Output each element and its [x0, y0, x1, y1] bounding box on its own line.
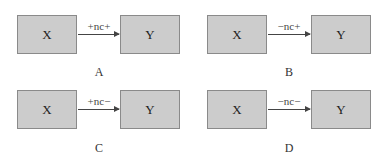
node-y: Y [120, 15, 180, 54]
node-x: X [17, 90, 77, 129]
arrow-icon [268, 109, 310, 110]
node-x-label: X [42, 27, 51, 43]
node-y-label: Y [336, 102, 345, 118]
node-y: Y [120, 90, 180, 129]
panel-label: B [285, 65, 293, 80]
node-x: X [207, 15, 267, 54]
arrow-label: −nc− [278, 95, 301, 107]
arrow-label: +nc+ [88, 20, 111, 32]
arrow-icon [78, 34, 119, 35]
node-x: X [207, 90, 267, 129]
arrow-icon [78, 109, 119, 110]
panel-label: A [95, 65, 104, 80]
node-x-label: X [232, 27, 241, 43]
node-y-label: Y [336, 27, 345, 43]
node-x: X [17, 15, 77, 54]
node-x-label: X [42, 102, 51, 118]
node-y-label: Y [145, 27, 154, 43]
arrow-icon [268, 34, 310, 35]
node-x-label: X [232, 102, 241, 118]
panel-label: D [285, 141, 294, 156]
arrow-label: −nc+ [278, 20, 301, 32]
node-y: Y [311, 90, 371, 129]
arrow-label: +nc− [88, 95, 111, 107]
panel-label: C [95, 141, 103, 156]
node-y: Y [311, 15, 371, 54]
node-y-label: Y [145, 102, 154, 118]
